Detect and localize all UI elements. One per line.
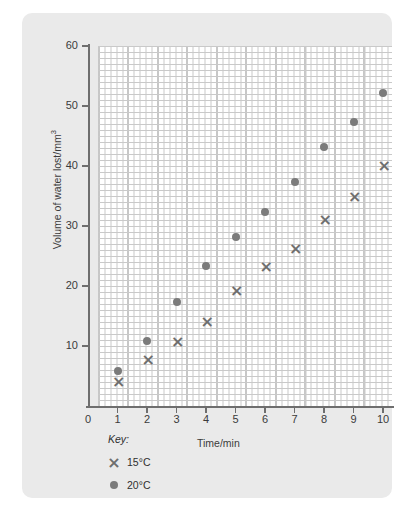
x-tick-label-2: 2: [135, 413, 159, 425]
y-tick-30: [82, 225, 89, 226]
screenshot-root: 102030405060 012345678910 Volume of wate…: [0, 0, 414, 515]
x-tick-6: [264, 406, 265, 413]
x-tick-label-3: 3: [165, 413, 189, 425]
data-point-20c-t6: [261, 208, 269, 216]
x-tick-8: [323, 406, 324, 413]
y-tick-label-20: 20: [50, 279, 78, 291]
x-tick-label-4: 4: [194, 413, 218, 425]
data-point-20c-t10: [379, 89, 387, 97]
data-point-15c-t6: [260, 261, 271, 272]
dot-icon: [108, 479, 120, 491]
x-tick-10: [382, 406, 383, 413]
x-tick-label-6: 6: [253, 413, 277, 425]
y-tick-20: [82, 285, 89, 286]
data-point-20c-t8: [320, 143, 328, 151]
key-label-1: 20°C: [127, 479, 150, 491]
chart-card: 102030405060 012345678910 Volume of wate…: [22, 13, 392, 498]
key-entry-1: 20°C: [108, 479, 150, 491]
data-point-15c-t2: [142, 354, 153, 365]
key-title: Key:: [108, 433, 150, 445]
data-point-20c-t5: [232, 233, 240, 241]
data-point-15c-t9: [348, 191, 359, 202]
data-point-15c-t10: [378, 159, 389, 170]
x-tick-label-10: 10: [371, 413, 395, 425]
x-tick-label-9: 9: [342, 413, 366, 425]
chart-key: Key: 15°C20°C: [108, 433, 150, 491]
data-point-20c-t9: [350, 118, 358, 126]
data-point-15c-t8: [319, 213, 330, 224]
y-tick-50: [82, 105, 89, 106]
data-point-20c-t1: [114, 367, 122, 375]
x-tick-label-1: 1: [106, 413, 130, 425]
x-axis-line: [86, 406, 394, 408]
y-tick-10: [82, 345, 89, 346]
x-tick-label-7: 7: [283, 413, 307, 425]
x-tick-4: [205, 406, 206, 413]
key-label-0: 15°C: [127, 456, 150, 468]
x-tick-5: [235, 406, 236, 413]
y-tick-60: [82, 45, 89, 46]
y-tick-40: [82, 165, 89, 166]
x-tick-label-0: 0: [76, 413, 100, 425]
data-point-15c-t5: [230, 284, 241, 295]
x-tick-label-8: 8: [312, 413, 336, 425]
x-tick-1: [117, 406, 118, 413]
x-tick-7: [294, 406, 295, 413]
y-axis-title: Volume of water lost/mm3: [49, 110, 63, 270]
y-tick-label-60: 60: [50, 39, 78, 51]
data-point-20c-t7: [291, 178, 299, 186]
x-axis-title: Time/min: [197, 437, 240, 449]
key-entries: 15°C20°C: [108, 456, 150, 491]
cross-icon: [108, 456, 120, 468]
data-point-15c-t4: [201, 315, 212, 326]
x-tick-label-5: 5: [224, 413, 248, 425]
data-point-20c-t2: [143, 337, 151, 345]
key-entry-0: 15°C: [108, 456, 150, 468]
x-tick-3: [176, 406, 177, 413]
data-point-15c-t7: [289, 242, 300, 253]
x-tick-9: [353, 406, 354, 413]
data-point-15c-t3: [171, 335, 182, 346]
data-point-20c-t3: [173, 298, 181, 306]
data-point-20c-t4: [202, 262, 210, 270]
data-point-15c-t1: [112, 375, 123, 386]
x-tick-2: [146, 406, 147, 413]
y-tick-label-10: 10: [50, 339, 78, 351]
